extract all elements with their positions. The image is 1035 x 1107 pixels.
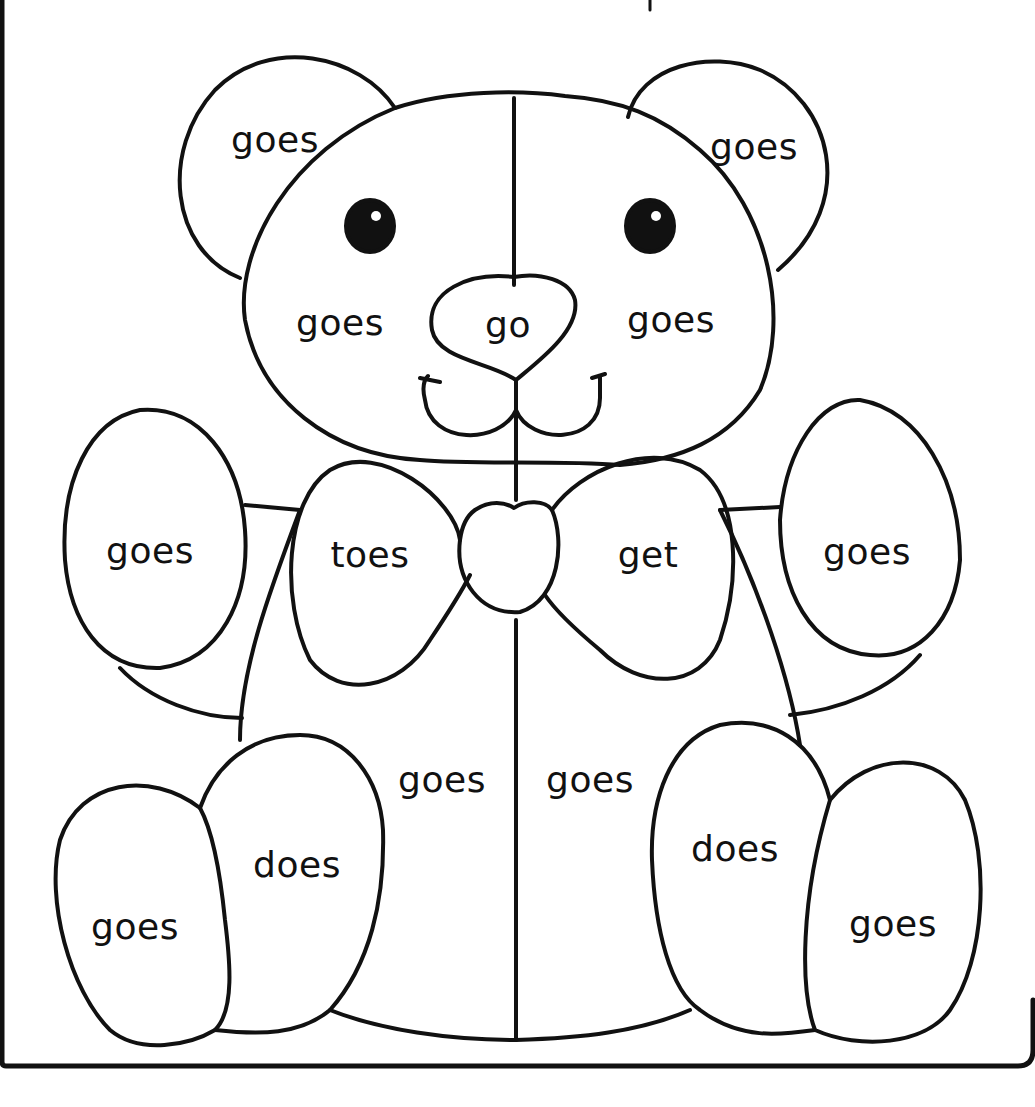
region-word-left-ear: goes (231, 122, 319, 158)
region-word-left-arm: goes (106, 533, 194, 569)
region-word-body-left: goes (398, 762, 486, 798)
head-outline (244, 92, 774, 465)
region-word-bow-right: get (618, 537, 679, 573)
region-word-right-ear: goes (710, 129, 798, 165)
region-word-nose: go (485, 307, 531, 343)
region-word-head-right: goes (627, 302, 715, 338)
region-word-body-right: goes (546, 762, 634, 798)
right-arm-outline (780, 400, 960, 655)
region-word-right-foot: goes (849, 906, 937, 942)
region-word-bow-left: toes (330, 537, 409, 573)
right-eye (626, 200, 674, 252)
region-word-right-arm: goes (823, 534, 911, 570)
region-word-left-leg: does (253, 847, 341, 883)
coloring-worksheet: goes goes goes go goes goes toes get goe… (0, 0, 1035, 1107)
body-bottom (330, 1010, 690, 1040)
region-word-head-left: goes (296, 305, 384, 341)
mouth-outline (420, 374, 605, 435)
right-leg-outline (652, 723, 830, 1034)
left-eye (346, 200, 394, 252)
region-word-right-leg: does (691, 831, 779, 867)
region-word-left-foot: goes (91, 909, 179, 945)
